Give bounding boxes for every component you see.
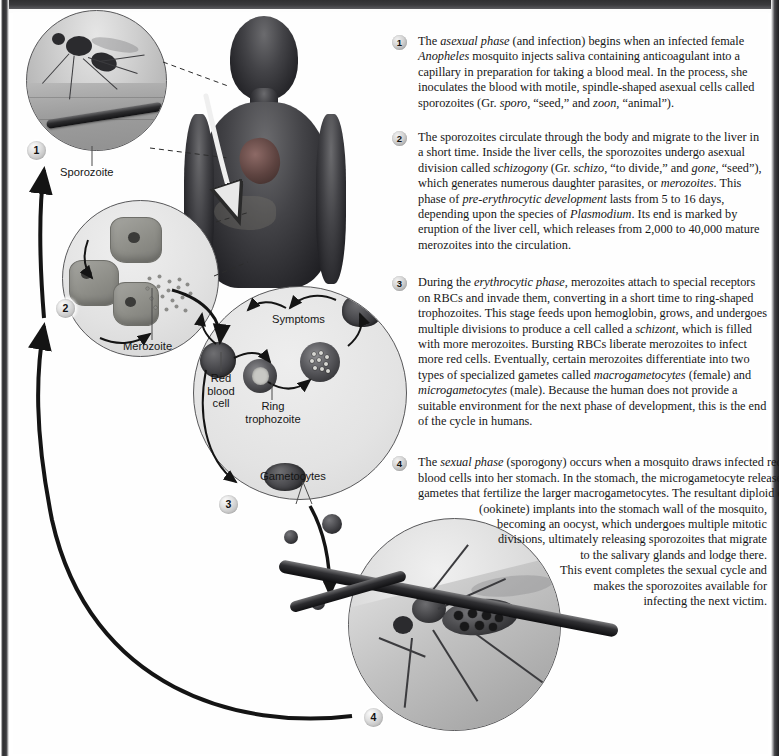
step-4-line: gametes that fertilize the larger macrog… — [418, 486, 767, 501]
step-4-line: This event completes the sexual cycle an… — [418, 563, 767, 578]
liver-schizogony-inset — [62, 200, 219, 357]
label-ring-trophozoite: Ring trophozoite — [236, 400, 310, 425]
step-4-line: (ookinete) implants into the stomach wal… — [418, 502, 767, 517]
step-badge-3[interactable]: 3 — [392, 276, 407, 291]
step-badge-1-text: 1 — [397, 37, 402, 48]
free-merozoite — [322, 514, 342, 534]
step-badge-3-text: 3 — [397, 278, 402, 289]
step-4-body: The sexual phase (sporogony) occurs when… — [418, 455, 767, 609]
step-3-body: During the erythrocytic phase, merozoite… — [418, 275, 767, 429]
illustration-panel: Sporozoite Merozoite Symptoms Red blood … — [0, 0, 400, 742]
label-symptoms: Symptoms — [272, 313, 325, 326]
step-4-line: The sexual phase (sporogony) occurs when… — [418, 455, 767, 470]
diagram-badge-2[interactable]: 2 — [56, 299, 75, 318]
step-4-line: divisions, ultimately releasing sporozoi… — [418, 532, 767, 547]
label-gametocytes: Gametocytes — [260, 470, 326, 483]
schizont-cell — [300, 342, 340, 382]
step-paragraph-2: 2 The sporozoites circulate through the … — [392, 130, 767, 253]
released-merozoites — [144, 275, 196, 319]
step-1-body: The asexual phase (and infection) begins… — [418, 34, 767, 111]
label-rbc-line3: cell — [213, 397, 230, 409]
diagram-badge-3-text: 3 — [226, 498, 232, 510]
mosquito-bite-inset — [26, 10, 167, 151]
steps-text-column: 1 The asexual phase (and infection) begi… — [392, 34, 767, 628]
label-ring-line2: trophozoite — [245, 413, 300, 425]
label-merozoite-text: Merozoite — [123, 340, 172, 352]
step-4-line: blood cells into her stomach. In the sto… — [418, 471, 767, 486]
step-badge-2-text: 2 — [397, 133, 402, 144]
liver-cell — [110, 217, 162, 263]
mosquito-thorax — [66, 36, 92, 56]
label-merozoite: Merozoite — [123, 340, 172, 353]
label-gametocytes-text: Gametocytes — [260, 470, 326, 482]
ring-trophozoite-cell — [243, 359, 277, 393]
step-4-line: to the salivary glands and lodge there. — [418, 548, 767, 563]
label-symptoms-text: Symptoms — [272, 313, 325, 325]
step-2-body: The sporozoites circulate through the bo… — [418, 130, 767, 253]
mosquito-leg — [41, 53, 69, 84]
diagram-badge-2-text: 2 — [63, 302, 69, 314]
liver-cell-nucleus — [125, 297, 136, 307]
step-paragraph-1: 1 The asexual phase (and infection) begi… — [392, 34, 767, 111]
label-rbc-line1: Red — [211, 372, 232, 384]
step-badge-4-text: 4 — [397, 458, 402, 469]
step-4-line: becoming an oocyst, which undergoes mult… — [418, 517, 767, 532]
human-torso — [198, 102, 332, 288]
human-arm-right — [316, 114, 346, 284]
figure-root: Sporozoite Merozoite Symptoms Red blood … — [0, 0, 779, 756]
step-4-line: makes the sporozoites available for — [418, 579, 767, 594]
step-badge-1[interactable]: 1 — [392, 35, 407, 50]
bursting-red-blood-cell — [342, 293, 382, 327]
liver-cell-nucleus — [128, 232, 140, 243]
step-paragraph-3: 3 During the erythrocytic phase, merozoi… — [392, 275, 767, 429]
diagram-badge-4-text: 4 — [371, 711, 377, 723]
label-rbc-line2: blood — [207, 385, 234, 397]
label-sporozoite: Sporozoite — [60, 166, 114, 179]
step-paragraph-4: 4 The sexual phase (sporogony) occurs wh… — [392, 455, 767, 609]
liver-cell — [69, 260, 119, 306]
diagram-badge-4[interactable]: 4 — [364, 708, 383, 727]
page-edge-right — [771, 0, 779, 756]
step-badge-4[interactable]: 4 — [392, 456, 407, 471]
free-merozoite — [284, 530, 298, 544]
mosquito-head — [52, 33, 65, 45]
skin-texture-line — [27, 97, 166, 98]
diagram-badge-3[interactable]: 3 — [219, 495, 238, 514]
liver-cell-nucleus — [81, 269, 92, 279]
diagram-badge-1-text: 1 — [34, 144, 40, 156]
step-badge-2[interactable]: 2 — [392, 131, 407, 146]
label-ring-line1: Ring — [261, 400, 284, 412]
label-sporozoite-text: Sporozoite — [60, 166, 114, 178]
diagram-badge-1[interactable]: 1 — [27, 141, 46, 160]
